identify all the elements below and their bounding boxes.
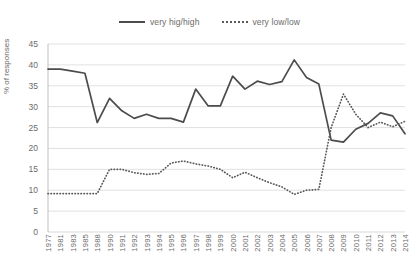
y-tick-label: 45 (29, 39, 38, 49)
chart-plot-svg (48, 44, 405, 232)
x-tick-label: 2003 (266, 234, 275, 252)
x-tick-label: 1991 (118, 234, 127, 252)
x-tick-label: 1995 (167, 234, 176, 252)
x-tick-label: 1988 (93, 234, 102, 252)
y-tick-label: 10 (29, 185, 38, 195)
plot-area (48, 44, 405, 232)
legend-swatch-solid-line-icon (119, 18, 145, 26)
y-tick-label: 15 (29, 164, 38, 174)
x-tick-label: 2001 (241, 234, 250, 252)
x-tick-label: 1985 (81, 234, 90, 252)
y-tick-label: 20 (29, 143, 38, 153)
x-tick-label: 2011 (364, 234, 373, 251)
y-tick-label: 25 (29, 123, 38, 133)
x-tick-label: 1997 (192, 234, 201, 252)
x-tick-label: 2010 (352, 234, 361, 252)
legend-item-very-high[interactable]: very hig/high (119, 17, 200, 27)
legend-label-very-high: very hig/high (150, 17, 200, 27)
x-tick-label: 1994 (155, 234, 164, 252)
legend-item-very-low[interactable]: very low/low (222, 17, 301, 27)
series-line-2 (48, 94, 405, 194)
chart-container: very hig/high very low/low % of response… (0, 0, 419, 277)
y-axis-tick-labels: 051015202530354045 (0, 44, 44, 232)
x-tick-label: 2012 (376, 234, 385, 252)
x-tick-label: 1977 (44, 234, 53, 252)
x-tick-label: 1981 (56, 234, 65, 252)
series-line-1 (48, 60, 405, 142)
x-tick-label: 2008 (327, 234, 336, 252)
x-tick-label: 1993 (143, 234, 152, 252)
x-tick-label: 2005 (290, 234, 299, 252)
x-tick-label: 1983 (69, 234, 78, 252)
y-tick-label: 35 (29, 81, 38, 91)
x-tick-label: 2002 (253, 234, 262, 252)
x-axis-tick-labels: 1977198119831985198819901991199219931994… (48, 234, 405, 277)
x-tick-label: 2000 (229, 234, 238, 252)
x-tick-label: 2004 (278, 234, 287, 252)
chart-legend: very hig/high very low/low (0, 14, 419, 30)
x-tick-label: 2009 (339, 234, 348, 252)
x-tick-label: 2014 (401, 234, 410, 252)
y-tick-label: 0 (33, 227, 38, 237)
x-tick-label: 1990 (106, 234, 115, 252)
y-tick-label: 30 (29, 102, 38, 112)
x-tick-label: 1996 (179, 234, 188, 252)
x-tick-label: 2013 (389, 234, 398, 252)
x-tick-label: 1998 (204, 234, 213, 252)
y-tick-label: 5 (33, 206, 38, 216)
x-tick-label: 2007 (315, 234, 324, 252)
y-tick-label: 40 (29, 60, 38, 70)
x-tick-label: 1992 (130, 234, 139, 252)
x-tick-label: 1999 (216, 234, 225, 252)
legend-swatch-dotted-line-icon (222, 18, 248, 26)
x-tick-label: 2006 (303, 234, 312, 252)
legend-label-very-low: very low/low (253, 17, 301, 27)
